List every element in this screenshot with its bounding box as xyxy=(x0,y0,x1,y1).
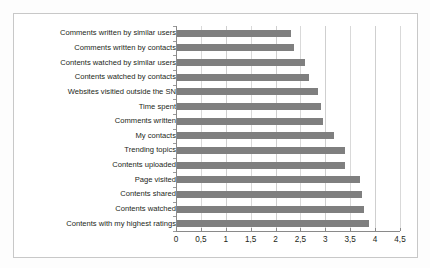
x-tick-mark xyxy=(350,228,351,231)
bar xyxy=(177,59,305,66)
x-tick-label: 1 xyxy=(214,235,238,244)
category-label: Trending topics xyxy=(18,146,176,154)
category-tick xyxy=(173,216,176,217)
bar xyxy=(177,103,321,110)
gridline xyxy=(226,26,227,231)
category-tick xyxy=(173,99,176,100)
bar xyxy=(177,220,369,227)
bar xyxy=(177,176,360,183)
category-label: Time spent xyxy=(18,103,176,111)
category-label: Page visited xyxy=(18,176,176,184)
category-tick xyxy=(173,172,176,173)
category-axis-labels: Comments written by similar usersComment… xyxy=(18,26,176,231)
gridline xyxy=(201,26,202,231)
category-tick xyxy=(173,70,176,71)
x-tick-label: 2,5 xyxy=(288,235,312,244)
value-axis-spine xyxy=(176,26,177,231)
category-label: My contacts xyxy=(18,132,176,140)
bar xyxy=(177,206,364,213)
x-tick-label: 0 xyxy=(164,235,188,244)
x-tick-mark xyxy=(325,228,326,231)
x-tick-mark xyxy=(251,228,252,231)
bar xyxy=(177,191,362,198)
bar xyxy=(177,162,345,169)
category-label: Comments written xyxy=(18,117,176,125)
bar xyxy=(177,118,323,125)
x-tick-mark xyxy=(276,228,277,231)
gridline xyxy=(375,26,376,231)
category-label: Comments written by contacts xyxy=(18,44,176,52)
gridline xyxy=(350,26,351,231)
gridline xyxy=(276,26,277,231)
category-label: Contents watched by contacts xyxy=(18,73,176,81)
category-tick xyxy=(173,202,176,203)
figure: Comments written by similar usersComment… xyxy=(0,0,430,268)
category-label: Websites visitied outside the SN xyxy=(18,88,176,96)
category-tick xyxy=(173,26,176,27)
x-tick-label: 4,5 xyxy=(388,235,412,244)
x-tick-label: 3 xyxy=(313,235,337,244)
category-tick xyxy=(173,55,176,56)
bar xyxy=(177,44,294,51)
gridline xyxy=(300,26,301,231)
gridline xyxy=(400,26,401,231)
bar-chart: Comments written by similar usersComment… xyxy=(14,14,419,259)
category-tick xyxy=(173,41,176,42)
bar xyxy=(177,147,345,154)
category-tick xyxy=(173,114,176,115)
x-tick-mark xyxy=(176,228,177,231)
category-tick xyxy=(173,143,176,144)
x-tick-mark xyxy=(201,228,202,231)
chart-frame: Comments written by similar usersComment… xyxy=(13,13,418,258)
x-axis-tick-labels: 00,511,522,533,544,5 xyxy=(164,235,424,251)
category-tick xyxy=(173,158,176,159)
category-tick xyxy=(173,129,176,130)
bar xyxy=(177,132,334,139)
x-tick-mark xyxy=(300,228,301,231)
bar xyxy=(177,74,309,81)
category-label: Contents uploaded xyxy=(18,161,176,169)
x-tick-mark xyxy=(375,228,376,231)
category-label: Comments written by similar users xyxy=(18,29,176,37)
category-label: Contents watched by similar users xyxy=(18,59,176,67)
x-tick-mark xyxy=(226,228,227,231)
x-tick-label: 3,5 xyxy=(338,235,362,244)
x-axis-line xyxy=(176,231,400,232)
x-tick-label: 2 xyxy=(264,235,288,244)
x-tick-label: 1,5 xyxy=(239,235,263,244)
gridline xyxy=(325,26,326,231)
plot-area xyxy=(176,26,400,231)
category-label: Contents with my highest ratings xyxy=(18,220,176,228)
category-label: Contents shared xyxy=(18,190,176,198)
category-tick xyxy=(173,85,176,86)
category-label: Contents watched xyxy=(18,205,176,213)
bar xyxy=(177,30,291,37)
x-tick-label: 4 xyxy=(363,235,387,244)
x-tick-label: 0,5 xyxy=(189,235,213,244)
category-tick xyxy=(173,187,176,188)
bar xyxy=(177,88,318,95)
gridline xyxy=(251,26,252,231)
x-tick-mark xyxy=(400,228,401,231)
